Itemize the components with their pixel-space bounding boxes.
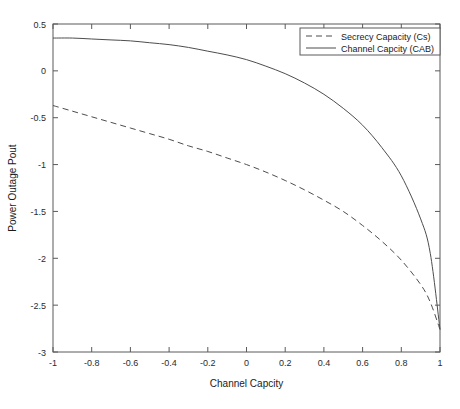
x-tick-label: 0.8 (395, 358, 408, 368)
y-tick-label: -3 (38, 348, 46, 358)
series-channel-capacity (53, 38, 440, 330)
legend-label: Channel Capcity (CAB) (341, 44, 434, 54)
x-tick-label: 0.6 (356, 358, 369, 368)
y-tick-label: -0.5 (30, 113, 46, 123)
series-secrecy-capacity (53, 106, 440, 330)
x-tick-label: 0.4 (318, 358, 331, 368)
x-axis-label: Channel Capcity (210, 378, 283, 389)
y-tick-label: -1.5 (30, 207, 46, 217)
x-tick-label: 1 (437, 358, 442, 368)
line-chart: -1-0.8-0.6-0.4-0.200.20.40.60.810.50-0.5… (0, 0, 460, 409)
x-tick-label: -0.2 (200, 358, 216, 368)
legend-label: Secrecy Capacity (Cs) (341, 32, 431, 42)
x-tick-label: -0.8 (84, 358, 100, 368)
x-tick-label: 0 (244, 358, 249, 368)
y-tick-label: 0 (41, 66, 46, 76)
chart-figure: -1-0.8-0.6-0.4-0.200.20.40.60.810.50-0.5… (0, 0, 460, 409)
x-tick-label: -0.6 (123, 358, 139, 368)
y-axis-label: Power Outage Pout (7, 144, 18, 231)
plot-area-box (53, 24, 440, 352)
x-tick-label: 0.2 (279, 358, 292, 368)
y-tick-label: -2 (38, 254, 46, 264)
y-tick-label: -1 (38, 160, 46, 170)
x-tick-label: -0.4 (161, 358, 177, 368)
x-tick-label: -1 (49, 358, 57, 368)
y-tick-label: -2.5 (30, 301, 46, 311)
y-tick-label: 0.5 (33, 20, 46, 30)
